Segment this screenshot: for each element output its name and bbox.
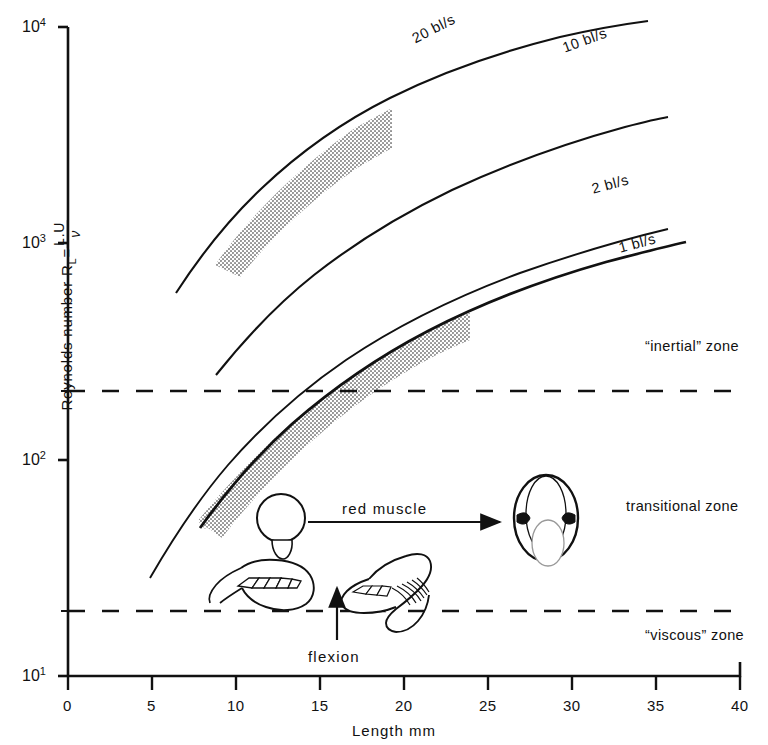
x-tick-label-0: 0 — [63, 697, 72, 714]
inset-juvenile-tail-profile — [341, 554, 431, 632]
y-axis-title-equals: = — [58, 248, 75, 258]
x-tick-label-10: 10 — [227, 697, 244, 714]
annotation-label-red-muscle: red muscle — [342, 500, 427, 517]
y-tick-label-10: 101 — [22, 665, 46, 685]
x-tick-label-15: 15 — [311, 697, 328, 714]
y-axis-title-numerator: L.U — [52, 220, 68, 248]
y-tick-label-10000: 104 — [22, 16, 46, 36]
x-axis-line — [68, 662, 740, 676]
x-tick-label-5: 5 — [147, 697, 156, 714]
inset-larval-cross-section — [257, 494, 305, 559]
y-axis-title-text: Reynolds number R — [58, 264, 75, 410]
x-tick-label-40: 40 — [731, 697, 748, 714]
shaded-band-upper — [215, 108, 392, 277]
inset-larval-tail-profile — [209, 560, 314, 610]
y-tick-label-1000: 103 — [22, 232, 46, 252]
zone-label-transitional: transitional zone — [626, 498, 738, 514]
zone-label-inertial: “inertial” zone — [645, 338, 739, 354]
x-tick-label-20: 20 — [395, 697, 412, 714]
annotation-label-flexion: flexion — [308, 648, 360, 665]
zone-label-viscous: “viscous” zone — [645, 627, 744, 643]
inset-adult-cross-section — [514, 475, 578, 566]
y-tick-label-100: 102 — [22, 449, 46, 469]
reynolds-number-chart: 104 103 102 101 Reynolds number RL= L.U … — [0, 0, 768, 745]
x-tick-label-35: 35 — [647, 697, 664, 714]
x-axis-ticks — [68, 676, 740, 690]
curve-1-bl-s — [200, 242, 686, 528]
x-tick-label-25: 25 — [479, 697, 496, 714]
y-axis-title: Reynolds number RL= L.U ν — [53, 185, 83, 445]
x-axis-title: Length mm — [352, 722, 436, 739]
y-axis-title-denominator: ν — [68, 220, 83, 248]
y-axis-title-subscript: L — [66, 258, 78, 265]
x-tick-label-30: 30 — [563, 697, 580, 714]
